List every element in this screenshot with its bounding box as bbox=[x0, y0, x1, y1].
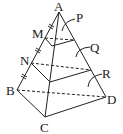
section-m-hidden bbox=[45, 38, 74, 40]
label-n: N bbox=[20, 53, 30, 68]
label-b: B bbox=[6, 83, 15, 98]
edge-ab bbox=[17, 12, 59, 90]
label-q: Q bbox=[90, 40, 100, 55]
section-n-front-2 bbox=[50, 70, 91, 82]
edge-bc bbox=[17, 90, 45, 117]
label-a: A bbox=[54, 0, 64, 14]
section-n-front-1 bbox=[31, 63, 50, 82]
label-c: C bbox=[40, 120, 49, 134]
section-n-hidden bbox=[31, 63, 91, 70]
section-m-front-1 bbox=[45, 38, 52, 46]
label-m: M bbox=[32, 26, 44, 41]
label-r: R bbox=[102, 66, 111, 81]
pyramid-diagram: A M N B C D P Q R bbox=[0, 0, 123, 134]
edge-cd bbox=[45, 97, 106, 117]
label-p: P bbox=[76, 10, 83, 25]
edge-bd-hidden bbox=[17, 90, 106, 97]
label-d: D bbox=[107, 92, 116, 107]
